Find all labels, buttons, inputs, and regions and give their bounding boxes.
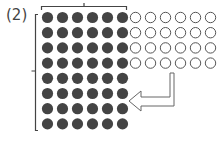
left-bracket xyxy=(32,15,39,131)
open-dot xyxy=(175,43,185,53)
open-dot xyxy=(175,58,185,68)
open-dot xyxy=(145,12,155,22)
filled-dot xyxy=(57,73,68,84)
filled-dot xyxy=(57,12,68,23)
open-dot xyxy=(205,12,215,22)
open-dot xyxy=(130,58,140,68)
filled-dot xyxy=(72,118,83,129)
filled-dot xyxy=(102,73,113,84)
filled-dot xyxy=(87,12,98,23)
filled-dot xyxy=(87,58,98,69)
filled-dot xyxy=(117,103,128,114)
open-dot-grid xyxy=(130,12,215,68)
filled-dot xyxy=(87,73,98,84)
open-dot xyxy=(130,43,140,53)
open-dot xyxy=(160,58,170,68)
open-dot xyxy=(145,28,155,38)
filled-dot xyxy=(102,88,113,99)
open-dot xyxy=(175,12,185,22)
filled-dot xyxy=(42,27,53,38)
filled-dot xyxy=(117,58,128,69)
top-bracket xyxy=(42,3,127,10)
open-dot xyxy=(160,28,170,38)
arrow-icon xyxy=(129,73,174,111)
filled-dot xyxy=(42,73,53,84)
filled-dot xyxy=(102,103,113,114)
filled-dot xyxy=(102,27,113,38)
filled-dot xyxy=(117,88,128,99)
filled-dot-grid xyxy=(42,12,128,130)
filled-dot xyxy=(87,88,98,99)
open-dot xyxy=(130,28,140,38)
filled-dot xyxy=(42,103,53,114)
filled-dot xyxy=(72,42,83,53)
filled-dot xyxy=(57,27,68,38)
filled-dot xyxy=(102,58,113,69)
open-dot xyxy=(160,43,170,53)
filled-dot xyxy=(117,118,128,129)
open-dot xyxy=(190,28,200,38)
filled-dot xyxy=(117,73,128,84)
filled-dot xyxy=(117,12,128,23)
filled-dot xyxy=(42,12,53,23)
open-dot xyxy=(205,28,215,38)
filled-dot xyxy=(87,42,98,53)
open-dot xyxy=(175,28,185,38)
filled-dot xyxy=(42,88,53,99)
filled-dot xyxy=(42,42,53,53)
filled-dot xyxy=(42,58,53,69)
filled-dot xyxy=(57,118,68,129)
open-dot xyxy=(205,58,215,68)
filled-dot xyxy=(72,27,83,38)
open-dot xyxy=(130,12,140,22)
open-dot xyxy=(145,43,155,53)
open-dot xyxy=(160,12,170,22)
filled-dot xyxy=(57,88,68,99)
open-dot xyxy=(145,58,155,68)
filled-dot xyxy=(87,103,98,114)
filled-dot xyxy=(42,118,53,129)
filled-dot xyxy=(87,27,98,38)
open-dot xyxy=(190,58,200,68)
filled-dot xyxy=(72,12,83,23)
open-dot xyxy=(205,43,215,53)
open-dot xyxy=(190,12,200,22)
open-dot xyxy=(190,43,200,53)
filled-dot xyxy=(87,118,98,129)
filled-dot xyxy=(72,103,83,114)
filled-dot xyxy=(117,42,128,53)
filled-dot xyxy=(57,58,68,69)
filled-dot xyxy=(57,42,68,53)
filled-dot xyxy=(102,12,113,23)
filled-dot xyxy=(117,27,128,38)
filled-dot xyxy=(72,58,83,69)
filled-dot xyxy=(72,88,83,99)
filled-dot xyxy=(72,73,83,84)
filled-dot xyxy=(102,42,113,53)
dot-array-diagram xyxy=(0,0,217,147)
filled-dot xyxy=(102,118,113,129)
filled-dot xyxy=(57,103,68,114)
